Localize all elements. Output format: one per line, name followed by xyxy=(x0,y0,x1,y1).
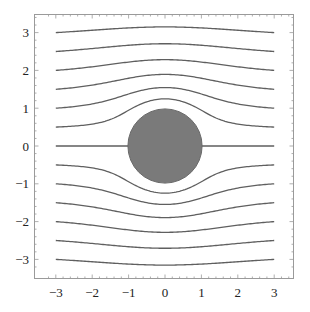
x-tick-label: 3 xyxy=(271,285,278,300)
x-tick-label: −1 xyxy=(122,285,136,300)
streamline xyxy=(56,241,274,249)
x-tick-label: 1 xyxy=(198,285,205,300)
x-tick-label: 2 xyxy=(235,285,242,300)
x-tick-label: −2 xyxy=(85,285,99,300)
streamline xyxy=(56,222,274,233)
y-tick-label: 0 xyxy=(23,139,30,154)
streamline xyxy=(56,60,274,71)
y-tick-label: −2 xyxy=(15,214,29,229)
cylinder xyxy=(128,109,202,183)
streamline xyxy=(56,184,274,205)
y-axis-tick-labels: 3210−1−2−3 xyxy=(15,25,29,267)
y-tick-label: −3 xyxy=(15,252,29,267)
y-tick-label: 3 xyxy=(23,25,30,40)
streamline xyxy=(56,27,274,33)
x-tick-label: 0 xyxy=(162,285,169,300)
y-tick-label: −1 xyxy=(15,176,29,191)
streamline-plot: −3−2−10123 3210−1−2−3 xyxy=(0,0,310,312)
streamline xyxy=(56,44,274,52)
y-tick-label: 1 xyxy=(23,101,30,116)
y-tick-label: 2 xyxy=(23,63,30,78)
streamline xyxy=(56,259,274,265)
streamline xyxy=(56,88,274,109)
x-tick-label: −3 xyxy=(49,285,63,300)
x-axis-tick-labels: −3−2−10123 xyxy=(49,285,278,300)
